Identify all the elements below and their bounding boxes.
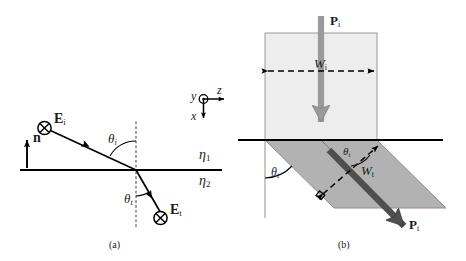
- angle-incidence-label: θi: [108, 132, 117, 147]
- axis-label-x: x: [191, 110, 196, 122]
- angle-transmission-right-label: θt: [343, 146, 350, 159]
- panel-b-graphics: [238, 16, 446, 226]
- figure-canvas: [0, 0, 466, 261]
- transmitted-field-subscript: t: [179, 208, 182, 218]
- circled-x-icon-transmitted: [154, 211, 167, 224]
- transmitted-ray-arrowhead: [145, 190, 155, 200]
- transmitted-field-label: Et: [170, 203, 182, 218]
- incident-ray-line: [45, 128, 136, 170]
- medium-lower-subscript: 2: [206, 179, 210, 189]
- transmitted-power-label: Pt: [409, 218, 419, 233]
- incident-field-subscript: i: [63, 117, 66, 127]
- axis-label-z: z: [217, 84, 222, 96]
- medium-upper-subscript: 1: [206, 153, 210, 163]
- angle-incidence-subscript: i: [114, 138, 116, 147]
- medium-lower-label: η2: [199, 174, 210, 189]
- transmitted-power-subscript: t: [417, 224, 419, 233]
- medium-upper-label: η1: [199, 148, 210, 163]
- angle-transmission-left-label: θt: [271, 166, 279, 179]
- transmitted-width-label: Wt: [361, 164, 374, 179]
- incident-power-subscript: i: [338, 20, 340, 29]
- incident-width-label: Wi: [314, 57, 327, 72]
- transmitted-width-subscript: t: [372, 170, 374, 179]
- angle-transmission-subscript-a: t: [130, 198, 132, 207]
- incident-field-label: Ei: [54, 112, 66, 127]
- axis-triad-a: [199, 95, 224, 118]
- panel-b-caption: (b): [338, 240, 350, 250]
- angle-transmission-label-a: θt: [124, 192, 133, 207]
- angle-transmission-left-subscript: t: [277, 171, 279, 180]
- angle-transmission-right-subscript: t: [348, 151, 350, 159]
- figure-root: n Ei Et θi θt η1 η2 y z x (a) Pi Wi Wt θ…: [0, 0, 466, 261]
- normal-vector-label: n: [33, 131, 41, 145]
- panel-a-caption: (a): [109, 240, 120, 250]
- axis-label-y: y: [191, 90, 196, 102]
- incident-width-subscript: i: [325, 63, 327, 72]
- incident-power-label: Pi: [330, 14, 340, 29]
